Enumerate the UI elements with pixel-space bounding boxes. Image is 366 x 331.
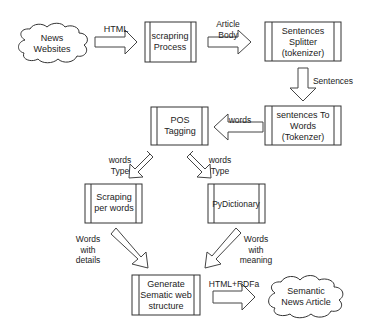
edge-label-words: words (229, 115, 252, 126)
scraping-per-words-line1: Scraping (94, 192, 134, 203)
sentences-to-words-line1: sentences To (277, 110, 330, 121)
edge-words-line1: words (229, 115, 252, 126)
edge-words-with-meaning-line1: Words (240, 234, 273, 245)
arrow-words-type-left (129, 151, 153, 178)
edge-article-body-line1: Article (216, 19, 240, 30)
edge-words-type-left-line2: Type (109, 165, 132, 176)
edge-label-words-with-details: Words with details (76, 234, 101, 266)
edge-label-words-with-meaning: Words with meaning (240, 234, 273, 266)
arrow-words-with-details (111, 228, 148, 268)
pos-tagging-line2: Tagging (164, 126, 196, 137)
edge-label-words-type-left: words Type (109, 155, 132, 176)
edge-label-html: HTML (104, 24, 129, 35)
sentences-splitter-line1: Sentences (282, 26, 325, 37)
semantic-news-article-line2: News Article (281, 297, 331, 308)
edge-label-html-rdfa: HTML+RDFa (209, 279, 259, 290)
edge-words-with-meaning-line2: with (240, 245, 273, 256)
arrow-words-with-meaning (205, 228, 241, 268)
edge-label-words-type-right: words Type (209, 155, 232, 176)
edge-words-type-left-line1: words (109, 155, 132, 166)
sentences-to-words-line3: (Tokenzer) (277, 132, 330, 143)
scraping-process-line1: scrapring (151, 31, 188, 42)
generate-semantic-line2: Sematic web (140, 290, 192, 301)
news-websites-label: News Websites (34, 33, 71, 55)
generate-semantic-line1: Generate (140, 279, 192, 290)
scraping-process-line2: Process (151, 42, 188, 53)
pos-tagging-label: POS Tagging (164, 115, 196, 137)
sentences-to-words-label: sentences To Words (Tokenzer) (277, 110, 330, 143)
generate-semantic-label: Generate Sematic web structure (140, 279, 192, 312)
edge-label-sentences: Sentences (313, 76, 353, 87)
pos-tagging-line1: POS (164, 115, 196, 126)
news-websites-line2: Websites (34, 44, 71, 55)
edge-words-with-details-line2: with (76, 245, 101, 256)
edge-words-type-right-line1: words (209, 155, 232, 166)
semantic-news-article-line1: Semantic (281, 286, 331, 297)
edge-html-rdfa-line1: HTML+RDFa (209, 279, 259, 290)
edge-words-with-details-line1: Words (76, 234, 101, 245)
semantic-news-article-label: Semantic News Article (281, 286, 331, 308)
edge-sentences-line1: Sentences (313, 76, 353, 87)
scraping-per-words-label: Scraping per words (94, 192, 134, 214)
scraping-per-words-line2: per words (94, 203, 134, 214)
sentences-splitter-line3: (tokenizer) (282, 48, 325, 59)
edge-article-body-line2: Body (216, 29, 240, 40)
sentences-splitter-label: Sentences Splitter (tokenizer) (282, 26, 325, 59)
sentences-splitter-line2: Splitter (282, 37, 325, 48)
pydictionary-line1: PyDictionary (212, 199, 260, 210)
edge-words-with-meaning-line3: meaning (240, 255, 273, 266)
arrow-words-type-right (187, 151, 211, 178)
edge-words-type-right-line2: Type (209, 165, 232, 176)
news-websites-line1: News (34, 33, 71, 44)
sentences-to-words-line2: Words (277, 121, 330, 132)
generate-semantic-line3: structure (140, 301, 192, 312)
edge-words-with-details-line3: details (76, 255, 101, 266)
edge-label-article-body: Article Body (216, 19, 240, 40)
pydictionary-label: PyDictionary (212, 199, 260, 210)
edge-html-line1: HTML (104, 24, 129, 35)
scraping-process-label: scrapring Process (151, 31, 188, 53)
